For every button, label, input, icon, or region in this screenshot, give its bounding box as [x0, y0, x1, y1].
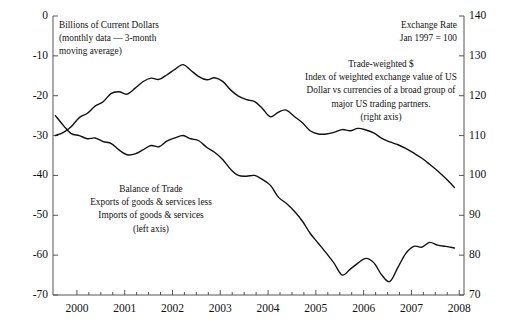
left-axis-caption-line: moving average): [59, 45, 159, 58]
trade-weighted-dollar-note-line: major US trading partners.: [301, 98, 461, 111]
left-axis-caption-line: (monthly data — 3-month: [59, 32, 159, 45]
left-axis-ticks: [53, 16, 58, 295]
left-axis-tick-label: 0: [42, 10, 48, 22]
left-axis-tick-label: -30: [33, 130, 48, 142]
right-axis-tick-label: 120: [469, 90, 486, 102]
right-axis-caption-line: Exchange Rate: [400, 19, 457, 32]
right-axis-tick-label: 140: [469, 10, 486, 22]
right-axis-tick-label: 100: [469, 169, 486, 181]
left-axis-tick-label: -10: [33, 50, 48, 62]
right-axis-caption-line: Jan 1997 = 100: [400, 32, 457, 45]
x-axis-tick-label: 2004: [246, 303, 290, 315]
x-axis-tick-label: 2007: [389, 303, 433, 315]
balance-of-trade-note: Balance of TradeExports of goods & servi…: [63, 183, 239, 236]
left-axis-caption: Billions of Current Dollars(monthly data…: [59, 19, 159, 59]
x-axis-tick-label: 2000: [55, 303, 99, 315]
x-axis-tick-label: 2002: [150, 303, 194, 315]
x-axis-tick-label: 2008: [437, 303, 481, 315]
left-axis-caption-line: Billions of Current Dollars: [59, 19, 159, 32]
trade-weighted-dollar-note-line: (right axis): [301, 111, 461, 124]
balance-of-trade-note-line: Exports of goods & services less: [63, 196, 239, 209]
x-axis-tick-label: 2005: [294, 303, 338, 315]
x-axis-tick-label: 2006: [342, 303, 386, 315]
left-axis-tick-label: -40: [33, 169, 48, 181]
trade-weighted-dollar-note-line: Index of weighted exchange value of US: [301, 71, 461, 84]
right-axis-caption: Exchange RateJan 1997 = 100: [400, 19, 457, 45]
left-axis-tick-label: -70: [33, 289, 48, 301]
left-axis-tick-label: -60: [33, 249, 48, 261]
balance-of-trade-note-line: (left axis): [63, 223, 239, 236]
x-axis-ticks: [77, 290, 459, 295]
right-axis-tick-label: 80: [469, 249, 481, 261]
left-axis-tick-label: -20: [33, 90, 48, 102]
balance-of-trade-note-line: Balance of Trade: [63, 183, 239, 196]
trade-weighted-dollar-note-line: Dollar vs currencies of a broad group of: [301, 84, 461, 97]
right-axis-tick-label: 130: [469, 50, 486, 62]
balance-of-trade-note-line: Imports of goods & services: [63, 209, 239, 222]
exchange-rate-trade-balance-chart: 0-10-20-30-40-50-60-70 14013012011010090…: [0, 0, 511, 330]
trade-weighted-dollar-note: Trade-weighted $Index of weighted exchan…: [301, 58, 461, 124]
left-axis-tick-label: -50: [33, 209, 48, 221]
x-axis-tick-label: 2001: [103, 303, 147, 315]
x-axis-tick-label: 2003: [198, 303, 242, 315]
right-axis-tick-label: 70: [469, 289, 481, 301]
right-axis-tick-label: 90: [469, 209, 481, 221]
right-axis-tick-label: 110: [469, 130, 486, 142]
trade-weighted-dollar-note-line: Trade-weighted $: [301, 58, 461, 71]
